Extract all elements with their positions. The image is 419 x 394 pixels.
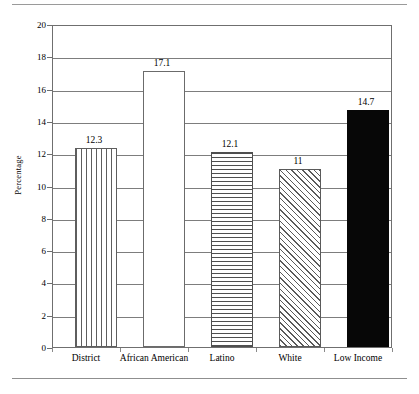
y-tick-label: 4 bbox=[8, 278, 52, 288]
value-label-district: 12.3 bbox=[54, 135, 134, 145]
x-label-african-american: African American bbox=[112, 353, 196, 363]
gridline bbox=[53, 123, 391, 124]
x-label-district: District bbox=[52, 353, 120, 363]
x-label-low-income: Low Income bbox=[320, 353, 396, 363]
y-tick-label: 0 bbox=[8, 343, 52, 353]
value-label-low-income: 14.7 bbox=[326, 97, 406, 107]
bar-white[interactable] bbox=[279, 169, 321, 347]
x-label-white: White bbox=[256, 353, 324, 363]
x-tick-mark bbox=[256, 348, 257, 352]
x-label-latino: Latino bbox=[188, 353, 256, 363]
x-tick-mark bbox=[324, 348, 325, 352]
value-label-african-american: 17.1 bbox=[122, 58, 202, 68]
x-tick-mark bbox=[392, 348, 393, 352]
x-tick-mark bbox=[120, 348, 121, 352]
y-tick-label: 12 bbox=[8, 149, 52, 159]
y-tick-label: 14 bbox=[8, 117, 52, 127]
bar-african-american[interactable] bbox=[143, 71, 185, 347]
y-tick-label: 6 bbox=[8, 246, 52, 256]
plot-area bbox=[52, 25, 392, 348]
gridline bbox=[53, 91, 391, 92]
x-tick-mark bbox=[188, 348, 189, 352]
figure-top-rule bbox=[12, 4, 407, 5]
y-axis: 20 18 16 14 12 10 8 6 4 2 0 bbox=[0, 25, 52, 348]
y-tick-label: 20 bbox=[8, 20, 52, 30]
bar-chart: Percentage 20 18 16 14 12 10 8 6 4 2 0 bbox=[0, 0, 419, 394]
bar-district[interactable] bbox=[75, 148, 117, 347]
bar-latino[interactable] bbox=[211, 152, 253, 347]
y-tick-label: 2 bbox=[8, 311, 52, 321]
bar-low-income[interactable] bbox=[347, 110, 389, 347]
gridline bbox=[53, 58, 391, 59]
x-tick-mark bbox=[52, 348, 53, 352]
y-tick-label: 16 bbox=[8, 85, 52, 95]
y-tick-label: 10 bbox=[8, 182, 52, 192]
y-tick-label: 18 bbox=[8, 52, 52, 62]
y-tick-label: 8 bbox=[8, 214, 52, 224]
value-label-white: 11 bbox=[258, 156, 338, 166]
value-label-latino: 12.1 bbox=[190, 139, 270, 149]
figure-bottom-rule bbox=[12, 378, 407, 379]
